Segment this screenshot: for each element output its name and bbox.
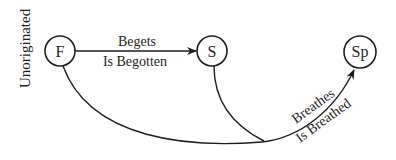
node-f-label: F [56,43,65,60]
begets-label: Begets [118,34,156,49]
node-s-label: S [208,43,217,60]
node-f: F [45,36,75,66]
node-sp-label: Sp [352,43,369,61]
diagram-canvas: Unoriginated Begets Is Begotten Breathes… [0,0,396,160]
unoriginated-label: Unoriginated [17,8,33,88]
node-s: S [197,36,227,66]
is-begotten-label: Is Begotten [103,54,167,69]
breathes-edge-from-s [214,66,264,141]
node-sp: Sp [344,36,376,68]
